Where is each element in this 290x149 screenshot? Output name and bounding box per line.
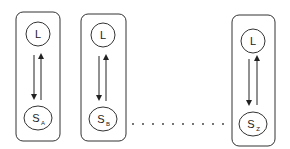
unit-z-L-label: L bbox=[250, 35, 256, 47]
unit-z: L S Z bbox=[232, 15, 275, 146]
diagram-canvas: L S A L S B L S Z bbox=[0, 0, 290, 149]
unit-a: L S A bbox=[16, 12, 60, 141]
ellipsis-dots bbox=[132, 123, 224, 125]
unit-b-S-subscript: B bbox=[106, 121, 110, 127]
unit-b-L-label: L bbox=[100, 29, 106, 41]
unit-a-S-label: S bbox=[32, 112, 39, 124]
unit-b-S-label: S bbox=[97, 113, 104, 125]
unit-a-L-label: L bbox=[35, 28, 41, 40]
unit-z-S-subscript: Z bbox=[256, 126, 260, 132]
unit-z-S-label: S bbox=[247, 118, 254, 130]
unit-a-S-subscript: A bbox=[41, 120, 45, 126]
unit-b: L S B bbox=[81, 14, 126, 141]
